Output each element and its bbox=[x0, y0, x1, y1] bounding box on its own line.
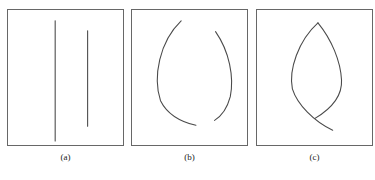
panel-b bbox=[131, 9, 248, 146]
panel-c-caption: (c) bbox=[256, 152, 373, 163]
panel-c bbox=[256, 9, 373, 146]
panel-a-caption: (a) bbox=[7, 152, 124, 163]
left-leaf-curve bbox=[292, 23, 333, 130]
right-leaf-curve bbox=[315, 23, 342, 119]
panel-a bbox=[7, 9, 124, 146]
panel-b-drawing bbox=[132, 10, 247, 145]
figure-container: (a) (b) (c) bbox=[0, 0, 375, 180]
left-arc bbox=[157, 21, 196, 125]
panel-a-drawing bbox=[8, 10, 123, 145]
panel-b-caption: (b) bbox=[131, 152, 248, 163]
right-arc bbox=[215, 32, 232, 121]
panel-c-drawing bbox=[257, 10, 372, 145]
